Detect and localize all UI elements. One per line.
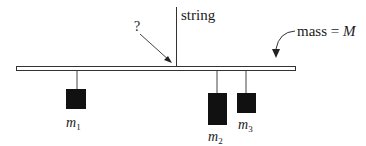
mass-symbol: m [208, 129, 218, 144]
mass-block-m3 [237, 93, 256, 113]
mass-block-m1 [66, 89, 86, 109]
mass-label-m2: m2 [208, 130, 223, 146]
mass-label-m1: m1 [66, 116, 81, 132]
mass-pointer-arrow-icon [272, 31, 295, 58]
mass-subscript: 1 [76, 122, 81, 132]
mass-subscript: 3 [248, 124, 253, 134]
mass-symbol: m [238, 117, 248, 132]
unknown-label: ? [134, 20, 140, 34]
mass-label-m3: m3 [238, 118, 253, 134]
mass-subscript: 2 [218, 136, 223, 146]
mass-block-m2 [208, 93, 227, 125]
string-label: string [181, 8, 215, 23]
mass-symbol: m [66, 115, 76, 130]
beam [17, 67, 296, 71]
beam-mass-symbol: M [343, 23, 356, 39]
question-arrow-icon [140, 34, 172, 63]
beam-mass-prefix: mass = [297, 23, 343, 39]
beam-mass-label: mass = M [297, 24, 355, 39]
